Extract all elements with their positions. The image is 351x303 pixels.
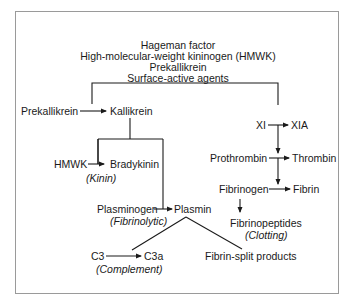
header-surface-active-agents: Surface-active agents	[127, 72, 229, 84]
label-complement: (Complement)	[96, 263, 163, 275]
node-c3: C3	[91, 250, 104, 262]
node-plasminogen: Plasminogen	[97, 203, 158, 215]
node-prothrombin: Prothrombin	[210, 152, 267, 164]
node-fibrinogen: Fibrinogen	[219, 183, 269, 195]
node-fibrinopeptides: Fibrinopeptides	[230, 217, 302, 229]
node-xi: XI	[256, 119, 266, 131]
node-c3a: C3a	[144, 250, 163, 262]
node-fibrin-split-products: Fibrin-split products	[205, 250, 297, 262]
node-xia: XIA	[291, 119, 308, 131]
node-hmwk: HMWK	[54, 158, 87, 170]
node-prekallikrein: Prekallikrein	[21, 105, 78, 117]
node-kallikrein: Kallikrein	[110, 105, 153, 117]
label-fibrinolytic: (Fibrinolytic)	[110, 215, 167, 227]
node-bradykinin: Bradykinin	[110, 158, 159, 170]
label-kinin: (Kinin)	[86, 172, 116, 184]
node-thrombin: Thrombin	[292, 152, 336, 164]
node-fibrin: Fibrin	[293, 183, 319, 195]
node-plasmin: Plasmin	[174, 203, 211, 215]
label-clotting: (Clotting)	[245, 229, 288, 241]
header-bracket-line	[92, 83, 278, 105]
